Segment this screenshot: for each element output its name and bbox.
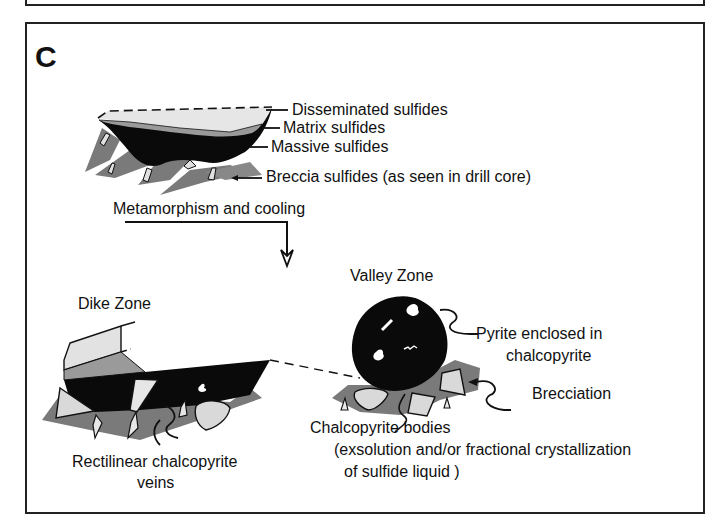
label-pyrite-enclosed-line1: Pyrite enclosed in [476, 325, 602, 343]
label-chalcopyrite-bodies-line2: (exsolution and/or fractional crystalliz… [334, 441, 631, 459]
label-rectilinear-veins-line1: Rectilinear chalcopyrite [72, 453, 237, 471]
label-pyrite-enclosed-line2: chalcopyrite [506, 347, 591, 365]
label-metamorphism-cooling: Metamorphism and cooling [113, 200, 305, 218]
transition-arrow [125, 222, 293, 266]
label-rectilinear-veins-line2: veins [137, 474, 174, 492]
label-matrix-sulfides: Matrix sulfides [283, 119, 385, 137]
label-chalcopyrite-bodies-line3: of sulfide liquid ) [344, 463, 460, 481]
label-disseminated-sulfides: Disseminated sulfides [292, 101, 448, 119]
label-brecciation: Brecciation [532, 385, 611, 403]
label-valley-zone: Valley Zone [350, 267, 433, 285]
label-dike-zone: Dike Zone [78, 295, 151, 313]
initial-sulfide-body [85, 107, 288, 195]
valley-zone-diagram [332, 296, 511, 432]
label-chalcopyrite-bodies-line1: Chalcopyrite bodies [310, 419, 451, 437]
label-massive-sulfides: Massive sulfides [271, 138, 388, 156]
label-breccia-sulfides: Breccia sulfides (as seen in drill core) [266, 168, 531, 186]
